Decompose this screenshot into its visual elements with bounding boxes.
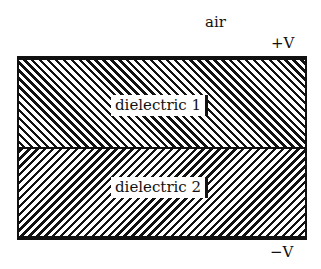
dielectric-2-label: dielectric 2	[111, 177, 208, 198]
dielectric-1-label: dielectric 1	[111, 95, 208, 116]
negative-voltage-label: −V	[270, 245, 293, 260]
positive-voltage-label: +V	[271, 36, 294, 51]
bottom-plate	[17, 236, 307, 240]
air-label: air	[205, 15, 226, 30]
